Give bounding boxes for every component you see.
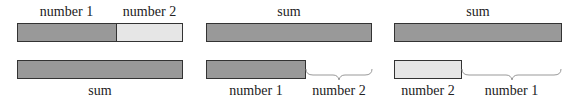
label-number-1: number 1	[17, 5, 116, 19]
brace-icon	[461, 68, 562, 82]
label-sum: sum	[17, 84, 183, 98]
bar-number-1	[17, 23, 117, 42]
bar-sum	[394, 23, 562, 42]
label-sum: sum	[394, 5, 562, 19]
label-number-1: number 1	[461, 84, 562, 98]
brace-icon	[305, 68, 373, 82]
bar-sum	[206, 23, 372, 42]
bar-sum	[17, 60, 183, 79]
bar-number-2	[394, 60, 462, 79]
label-number-2: number 2	[116, 5, 183, 19]
label-number-2: number 2	[305, 84, 373, 98]
bar-number-2	[116, 23, 183, 42]
label-sum: sum	[206, 5, 372, 19]
label-number-2: number 2	[394, 84, 462, 98]
label-number-1: number 1	[206, 84, 306, 98]
bar-number-1	[206, 60, 306, 79]
